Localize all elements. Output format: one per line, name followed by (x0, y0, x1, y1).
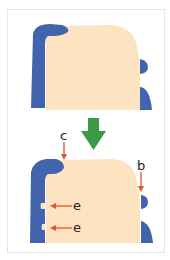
label-e-upper: e (73, 199, 81, 212)
notch-upper (41, 203, 46, 209)
beige-body-top (46, 25, 140, 110)
blue-lower-right-bottom (141, 221, 153, 243)
pointer-c (61, 142, 67, 160)
pointer-b (138, 172, 144, 192)
label-e-lower: e (73, 221, 81, 234)
blue-bump-top (140, 59, 148, 74)
label-c: c (60, 129, 67, 142)
diagram-canvas (0, 0, 170, 260)
notch-lower (42, 224, 46, 230)
panel-after (30, 142, 153, 243)
blue-bump-bottom (141, 195, 148, 209)
blue-lower-right-top (140, 87, 152, 110)
label-b: b (137, 159, 145, 172)
panel-before (31, 24, 152, 110)
down-arrow-icon (81, 118, 106, 150)
